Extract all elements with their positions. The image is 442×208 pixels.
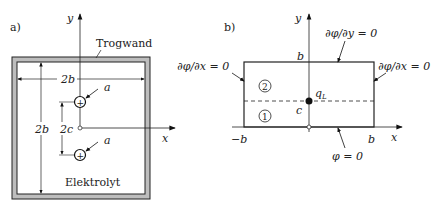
electrolyte-label: Elektrolyt — [65, 176, 121, 189]
left-tick: −b — [231, 133, 247, 146]
region-1-label: 1 — [262, 112, 268, 122]
electrode-top-symbol: + — [77, 98, 85, 108]
bottom-bc-label: φ = 0 — [332, 150, 363, 163]
left-bc-label: ∂φ/∂x = 0 — [177, 60, 229, 73]
spacing-label: 2c — [59, 123, 73, 136]
figure: a) Trogwand y x 2b 2b 2c + + — [0, 0, 442, 208]
wall-label: Trogwand — [96, 37, 152, 50]
line-source — [306, 98, 313, 105]
x-axis-label-b: x — [391, 131, 398, 144]
top-tick: b — [297, 50, 304, 63]
width-label: 2b — [60, 73, 75, 86]
panel-a-label: a) — [10, 21, 21, 34]
panel-a: a) Trogwand y x 2b 2b 2c + + — [10, 12, 175, 199]
radius-label-top: a — [104, 81, 111, 94]
top-bc-label: ∂φ/∂y = 0 — [325, 27, 377, 40]
panel-b: b) y x b −b b qL c 2 1 ∂φ/∂y = 0 ∂φ/∂x =… — [177, 12, 430, 163]
y-axis-label: y — [66, 12, 74, 25]
c-label: c — [296, 104, 302, 117]
y-axis-label-b: y — [294, 12, 302, 25]
region-2-label: 2 — [262, 82, 268, 92]
right-bc-label: ∂φ/∂x = 0 — [378, 60, 430, 73]
radius-label-bottom: a — [104, 134, 111, 147]
panel-b-label: b) — [224, 21, 235, 34]
right-tick: b — [368, 133, 375, 146]
x-axis-label: x — [162, 132, 169, 145]
diagram-canvas: a) Trogwand y x 2b 2b 2c + + — [0, 0, 442, 208]
electrode-bottom-symbol: + — [77, 151, 85, 161]
height-label: 2b — [34, 123, 49, 136]
